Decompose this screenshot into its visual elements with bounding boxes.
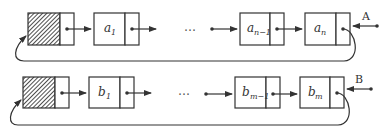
ellipsis-b: …	[178, 84, 190, 98]
list-a-node-an-1: a n−1	[210, 13, 302, 45]
svg-text:1: 1	[111, 28, 116, 37]
tail-pointer-a: A	[353, 10, 379, 28]
ellipsis-a: …	[184, 20, 196, 34]
tail-pointer-b: B	[347, 73, 373, 91]
node-label-bm-1: b	[242, 85, 250, 99]
node-label-b1: b	[98, 85, 106, 99]
list-a-node-a1: a 1	[94, 13, 156, 45]
list-b-node-b1: b 1	[89, 77, 151, 108]
svg-text:1: 1	[106, 92, 111, 101]
list-a: a 1 … a n−1 a n A	[16, 10, 379, 61]
linked-list-diagram: a 1 … a n−1 a n A	[0, 0, 386, 136]
list-b-node-bm-1: b m−1	[204, 77, 297, 108]
list-b-head-node	[23, 77, 86, 108]
svg-text:m−1: m−1	[250, 92, 269, 101]
svg-text:n: n	[321, 28, 326, 37]
list-b: b 1 … b m−1 b m B	[10, 73, 372, 125]
svg-text:n−1: n−1	[254, 28, 271, 37]
list-a-head-node	[28, 13, 91, 45]
pointer-label-b: B	[355, 73, 363, 86]
svg-text:m: m	[315, 92, 323, 101]
pointer-label-a: A	[361, 10, 371, 23]
